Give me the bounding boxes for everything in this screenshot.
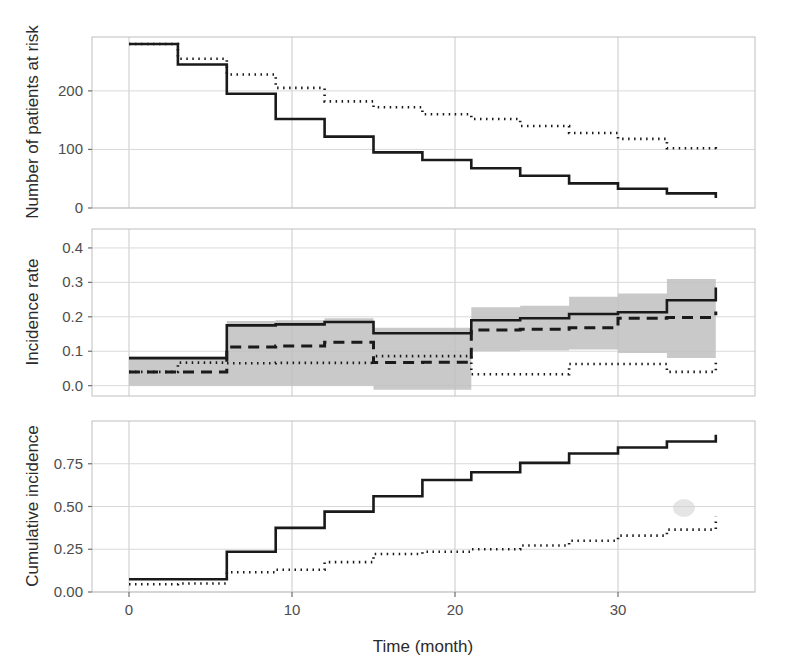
y-axis-title-top: Number of patients at risk <box>23 25 42 219</box>
x-tick-label: 0 <box>125 601 133 618</box>
y-tick-label: 0.25 <box>54 540 83 557</box>
panel-middle: 0.00.10.20.30.4Incidence rate <box>23 229 755 396</box>
x-tick-label: 30 <box>610 601 627 618</box>
y-tick-label: 0.4 <box>62 239 83 256</box>
figure-container: 0100200Number of patients at risk0.00.10… <box>0 0 787 670</box>
panel-background <box>92 37 755 208</box>
y-tick-label: 0.1 <box>62 342 83 359</box>
y-tick-label: 0.50 <box>54 498 83 515</box>
y-tick-label: 0.00 <box>54 583 83 600</box>
y-tick-label: 0.2 <box>62 308 83 325</box>
x-axis-title: Time (month) <box>373 637 473 656</box>
x-tick-label: 20 <box>447 601 464 618</box>
y-tick-label: 0 <box>75 199 83 216</box>
multi-panel-chart: 0100200Number of patients at risk0.00.10… <box>0 0 787 670</box>
y-tick-label: 0.75 <box>54 455 83 472</box>
y-tick-label: 200 <box>58 82 83 99</box>
panel-top: 0100200Number of patients at risk <box>23 25 755 219</box>
panel-bottom: 0.000.250.500.750102030Cumulative incide… <box>23 421 755 618</box>
y-tick-label: 0.0 <box>62 377 83 394</box>
panel-group: 0100200Number of patients at risk0.00.10… <box>23 25 755 618</box>
scan-artifact <box>673 499 695 517</box>
x-tick-label: 10 <box>284 601 301 618</box>
y-tick-label: 0.3 <box>62 273 83 290</box>
y-axis-title-bottom: Cumulative incidence <box>23 425 42 587</box>
y-tick-label: 100 <box>58 140 83 157</box>
y-axis-title-middle: Incidence rate <box>23 259 42 366</box>
